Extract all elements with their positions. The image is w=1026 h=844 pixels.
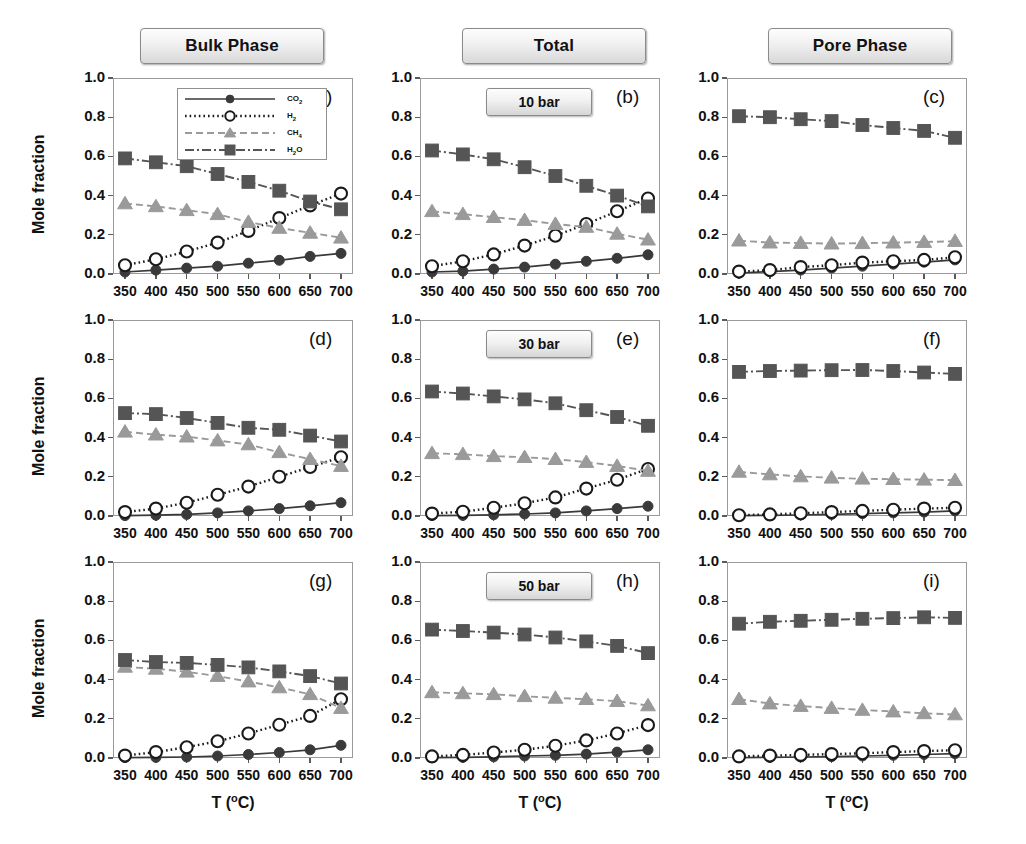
series-layer: [0, 0, 1026, 844]
series-H2O: [733, 611, 962, 630]
panel-i: (i)0.00.20.40.60.81.03504004505005506006…: [0, 0, 1026, 844]
series-CH4: [732, 692, 963, 720]
series-H2: [733, 744, 961, 762]
figure-root: Bulk PhaseTotalPore Phase(a)0.00.20.40.6…: [0, 0, 1026, 844]
